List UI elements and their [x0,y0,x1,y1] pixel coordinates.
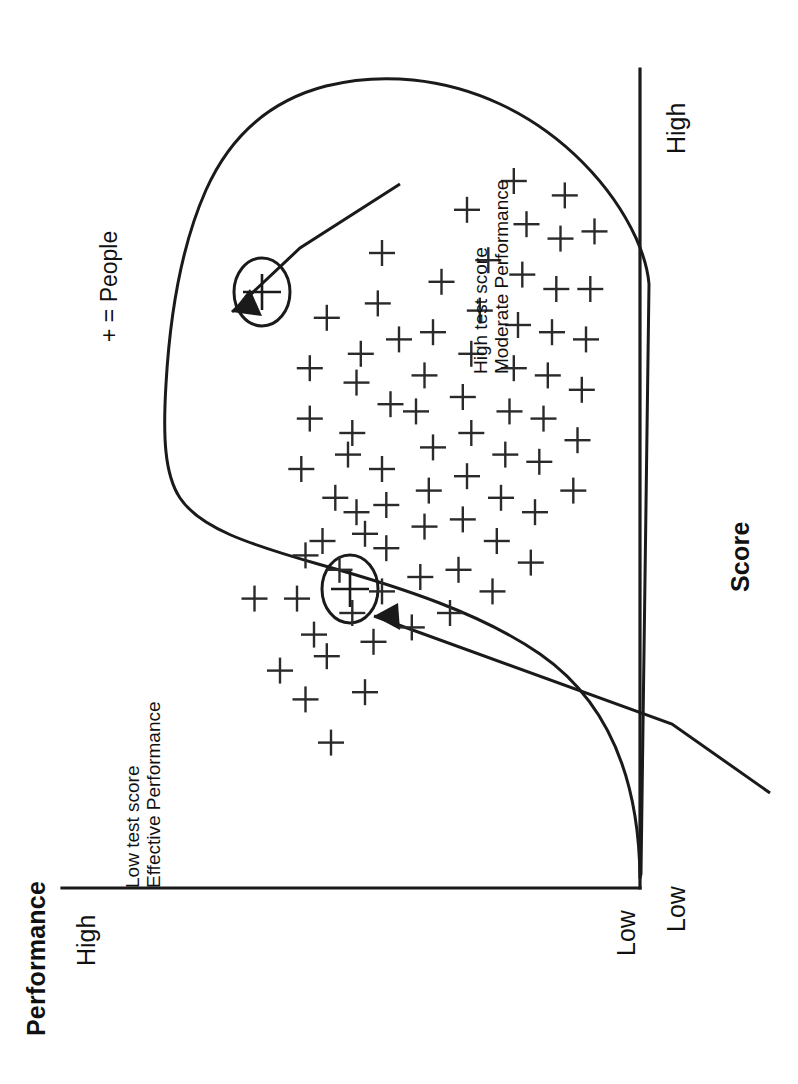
annotation-low-line2: Effective Performance [143,701,164,888]
leader-low [374,616,770,793]
y-axis-title: Performance [22,881,51,1036]
x-axis-tick-high: High [662,103,691,154]
rotated-figure-wrapper: Performance Score High Low Low High Low … [0,0,798,1084]
legend-people: + = People [96,231,123,342]
arrowhead-low [374,603,400,630]
annotation-low-test-score: Low test score Effective Performance [122,701,165,888]
data-envelope [165,79,649,878]
diagram-body: Performance Score High Low Low High Low … [0,0,798,1084]
annotation-high-line1: High test score [470,180,491,374]
scatter-points [242,168,608,756]
annotation-low-line1: Low test score [122,701,143,888]
annotation-high-test-score: High test score Moderate Performance [470,180,513,374]
annotation-high-line2: Moderate Performance [491,180,512,374]
figure-canvas: Performance Score High Low Low High Low … [0,0,798,1084]
x-axis-tick-low: Low [662,886,691,932]
y-axis-tick-low: Low [612,910,641,956]
y-axis-tick-high: High [72,915,101,966]
x-axis-title: Score [726,522,755,592]
